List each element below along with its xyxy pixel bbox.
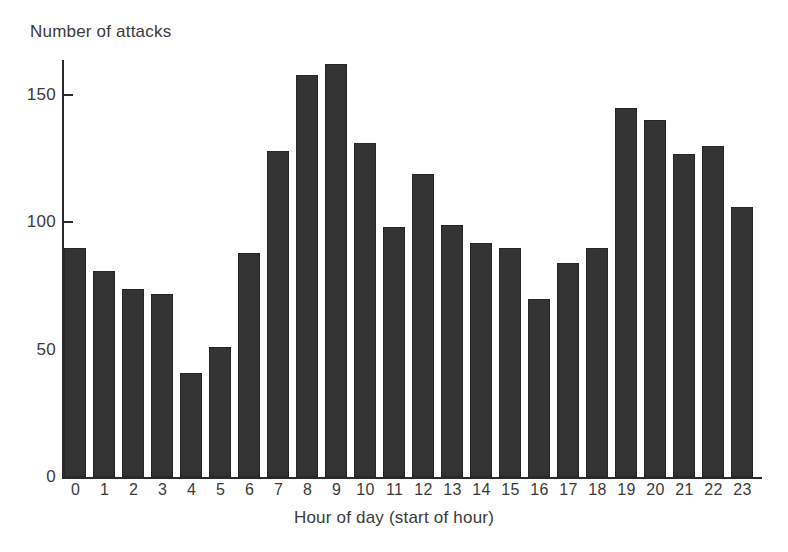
x-axis-tick-label: 15: [496, 481, 525, 499]
bar: [122, 289, 144, 477]
bar: [615, 108, 637, 477]
y-axis-tick-label: 50: [4, 340, 56, 360]
x-axis-tick-label: 10: [351, 481, 380, 499]
x-axis-tick-label: 11: [380, 481, 409, 499]
y-axis-tick-label: 150: [4, 85, 56, 105]
x-axis-tick-labels: 01234567891011121314151617181920212223: [64, 481, 760, 507]
x-axis-tick-label: 1: [90, 481, 119, 499]
x-axis-tick-label: 23: [728, 481, 757, 499]
x-axis-line: [62, 477, 762, 479]
bar: [209, 347, 231, 477]
bar: [354, 143, 376, 477]
bar-chart-figure: Number of attacks 050100150 012345678910…: [0, 0, 788, 552]
bar: [296, 75, 318, 477]
bar: [151, 294, 173, 477]
x-axis-tick-label: 13: [438, 481, 467, 499]
y-axis-tick-labels: 050100150: [0, 0, 56, 552]
bar: [702, 146, 724, 477]
bar: [238, 253, 260, 477]
x-axis-tick-label: 6: [235, 481, 264, 499]
x-axis-tick-label: 19: [612, 481, 641, 499]
bar: [731, 207, 753, 477]
bar-series: [64, 60, 760, 477]
x-axis-tick-label: 14: [467, 481, 496, 499]
bar: [64, 248, 86, 477]
bar: [673, 154, 695, 477]
x-axis-title: Hour of day (start of hour): [0, 508, 788, 528]
bar: [383, 227, 405, 477]
x-axis-tick-label: 22: [699, 481, 728, 499]
x-axis-tick-label: 9: [322, 481, 351, 499]
x-axis-tick-label: 3: [148, 481, 177, 499]
x-axis-tick-label: 16: [525, 481, 554, 499]
y-axis-tick-label: 100: [4, 212, 56, 232]
x-axis-tick-label: 0: [61, 481, 90, 499]
x-axis-tick-label: 4: [177, 481, 206, 499]
bar: [528, 299, 550, 477]
x-axis-tick-label: 18: [583, 481, 612, 499]
bar: [325, 64, 347, 477]
bar: [267, 151, 289, 477]
x-axis-tick-label: 8: [293, 481, 322, 499]
x-axis-tick-label: 5: [206, 481, 235, 499]
bar: [499, 248, 521, 477]
y-axis-tick-label: 0: [4, 467, 56, 487]
x-axis-tick-label: 21: [670, 481, 699, 499]
bar: [644, 120, 666, 477]
bar: [93, 271, 115, 477]
bar: [586, 248, 608, 477]
x-axis-tick-label: 7: [264, 481, 293, 499]
bar: [412, 174, 434, 477]
x-axis-tick-label: 17: [554, 481, 583, 499]
bar: [557, 263, 579, 477]
bar: [470, 243, 492, 477]
bar: [180, 373, 202, 477]
x-axis-tick-label: 20: [641, 481, 670, 499]
x-axis-tick-label: 12: [409, 481, 438, 499]
bar: [441, 225, 463, 477]
x-axis-tick-label: 2: [119, 481, 148, 499]
